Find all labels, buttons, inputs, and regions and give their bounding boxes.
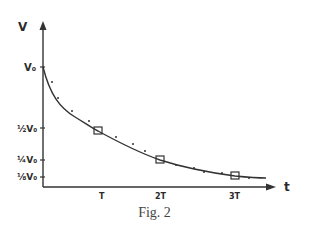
y-tick-v0: V₀: [24, 62, 36, 73]
y-tick-eighth-v0: ⅛V₀: [17, 172, 37, 182]
y-tick-half-v0: ½V₀: [17, 124, 37, 134]
x-axis-arrow-icon: [266, 184, 276, 191]
y-axis-arrow-icon: [40, 21, 47, 30]
x-tick-T: T: [99, 192, 105, 201]
y-tick-quarter-v0: ¼V₀: [17, 155, 37, 165]
data-dots: [51, 81, 250, 179]
x-tick-3T: 3T: [229, 192, 241, 201]
x-axis-label: t: [284, 180, 290, 194]
decay-diagram: V t V₀ ½V₀ ¼V₀ ⅛V₀ T 2T 3T: [0, 0, 309, 236]
decay-curve: [43, 67, 266, 178]
y-axis-label: V: [18, 20, 28, 34]
x-tick-2T: 2T: [155, 192, 167, 201]
figure-caption: Fig. 2: [0, 205, 309, 221]
